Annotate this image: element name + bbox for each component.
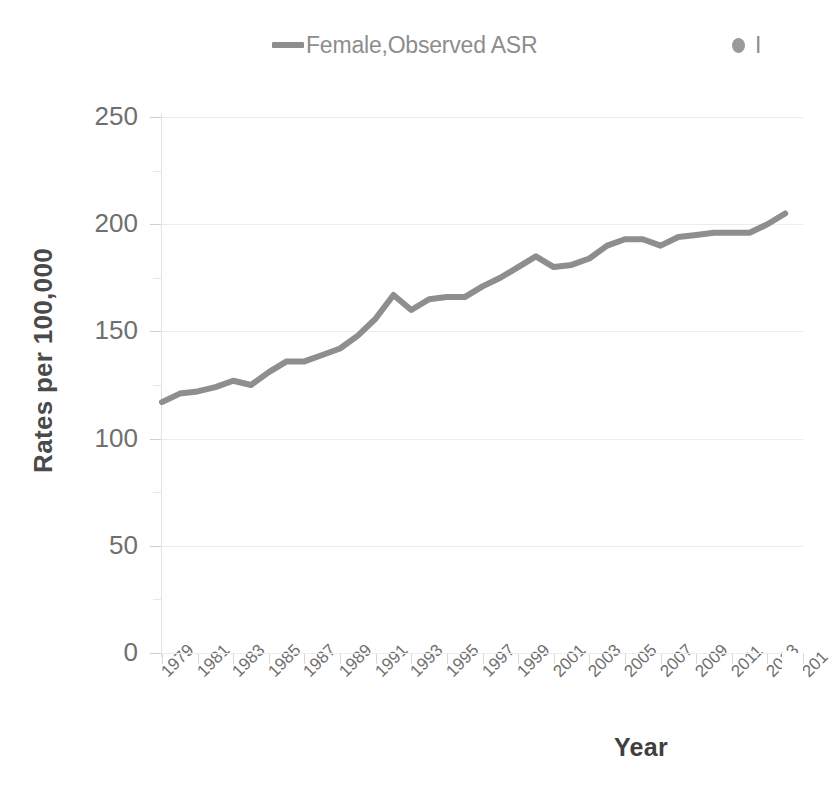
right-edge-clip bbox=[782, 653, 803, 773]
series-line bbox=[162, 213, 785, 402]
